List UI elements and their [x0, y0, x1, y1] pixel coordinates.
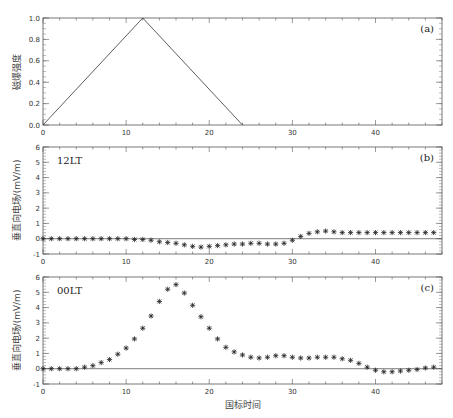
asterisk-marker: [373, 230, 378, 235]
x-tick-label: 20: [205, 388, 214, 396]
x-tick-label: 0: [41, 388, 45, 396]
y-tick-label: 1.0: [29, 15, 40, 23]
asterisk-marker: [190, 244, 195, 249]
asterisk-marker: [414, 230, 419, 235]
y-tick-label: 0: [36, 235, 40, 243]
y-tick-label: 0.6: [29, 57, 41, 65]
asterisk-marker: [90, 236, 95, 241]
asterisk-marker: [340, 230, 345, 235]
y-tick-label: 5: [36, 289, 40, 297]
asterisk-marker: [390, 230, 395, 235]
x-tick-label: 10: [122, 258, 131, 266]
x-tick-label: 10: [122, 388, 131, 396]
panel-tag: (c): [421, 282, 435, 293]
y-tick-label: 3: [36, 319, 40, 327]
y-tick-label: -1: [33, 251, 40, 259]
asterisk-marker: [82, 236, 87, 241]
y-tick-label: 0.4: [29, 79, 41, 87]
asterisk-marker: [40, 236, 45, 241]
x-tick-label: 30: [288, 388, 297, 396]
asterisk-marker: [173, 241, 178, 246]
asterisk-marker: [148, 313, 153, 318]
y-tick-label: 2: [36, 205, 40, 213]
y-tick-label: 1: [36, 220, 40, 228]
y-axis-label: 垂直向电场/(mV/m): [11, 290, 22, 372]
asterisk-marker: [65, 366, 70, 371]
asterisk-marker: [82, 365, 87, 370]
asterisk-marker: [157, 299, 162, 304]
panel-a: 0102030400.00.20.40.60.81.0(a)磁爆强度: [11, 15, 442, 138]
y-tick-label: 4: [36, 304, 41, 312]
panel-b: 010203040-10123456(b)12LT垂直向电场/(mV/m): [11, 144, 442, 267]
y-tick-label: 2: [36, 335, 40, 343]
asterisk-marker: [248, 241, 253, 246]
asterisk-marker: [232, 349, 237, 354]
plot-frame: [43, 18, 442, 125]
y-tick-label: 1: [36, 350, 40, 358]
y-tick-label: 0.2: [29, 100, 40, 108]
asterisk-marker: [281, 241, 286, 246]
asterisk-marker: [132, 336, 137, 341]
y-tick-label: 0.8: [29, 36, 40, 44]
asterisk-marker: [65, 236, 70, 241]
asterisk-marker: [331, 229, 336, 234]
asterisk-marker: [223, 345, 228, 350]
asterisk-marker: [406, 368, 411, 373]
asterisk-marker: [365, 365, 370, 370]
asterisk-marker: [190, 303, 195, 308]
x-tick-label: 20: [205, 129, 214, 137]
y-axis-label: 磁爆强度: [11, 54, 22, 90]
y-tick-label: -1: [33, 381, 40, 389]
asterisk-marker: [248, 355, 253, 360]
series-line: [43, 18, 243, 125]
asterisk-marker: [398, 230, 403, 235]
asterisk-marker: [431, 365, 436, 370]
panel-annotation: 12LT: [57, 155, 83, 166]
asterisk-marker: [381, 369, 386, 374]
x-tick-label: 40: [371, 258, 380, 266]
asterisk-marker: [132, 237, 137, 242]
asterisk-marker: [365, 230, 370, 235]
asterisk-marker: [381, 230, 386, 235]
asterisk-marker: [215, 336, 220, 341]
asterisk-marker: [165, 287, 170, 292]
asterisk-marker: [57, 366, 62, 371]
x-tick-label: 0: [41, 258, 45, 266]
panel-annotation: 00LT: [57, 285, 83, 296]
x-tick-label: 0: [41, 129, 45, 137]
plot-frame: [43, 147, 442, 254]
asterisk-marker: [414, 367, 419, 372]
asterisk-marker: [148, 238, 153, 243]
y-tick-label: 4: [36, 174, 41, 182]
asterisk-marker: [99, 360, 104, 365]
asterisk-marker: [431, 230, 436, 235]
asterisk-marker: [223, 242, 228, 247]
asterisk-marker: [182, 290, 187, 295]
asterisk-marker: [356, 361, 361, 366]
asterisk-marker: [232, 241, 237, 246]
asterisk-marker: [207, 244, 212, 249]
asterisk-marker: [240, 352, 245, 357]
asterisk-marker: [406, 230, 411, 235]
asterisk-marker: [306, 231, 311, 236]
x-tick-label: 10: [122, 129, 131, 137]
asterisk-marker: [423, 230, 428, 235]
asterisk-marker: [49, 236, 54, 241]
asterisk-marker: [273, 241, 278, 246]
x-tick-label: 40: [371, 129, 380, 137]
asterisk-marker: [398, 368, 403, 373]
x-tick-label: 40: [371, 388, 380, 396]
panel-tag: (b): [420, 152, 434, 163]
y-tick-label: 5: [36, 159, 40, 167]
asterisk-marker: [373, 368, 378, 373]
asterisk-marker: [315, 229, 320, 234]
x-tick-label: 30: [288, 258, 297, 266]
asterisk-marker: [423, 365, 428, 370]
asterisk-marker: [323, 355, 328, 360]
asterisk-marker: [107, 236, 112, 241]
asterisk-marker: [74, 366, 79, 371]
asterisk-marker: [290, 355, 295, 360]
asterisk-marker: [207, 326, 212, 331]
asterisk-marker: [298, 355, 303, 360]
asterisk-marker: [40, 366, 45, 371]
